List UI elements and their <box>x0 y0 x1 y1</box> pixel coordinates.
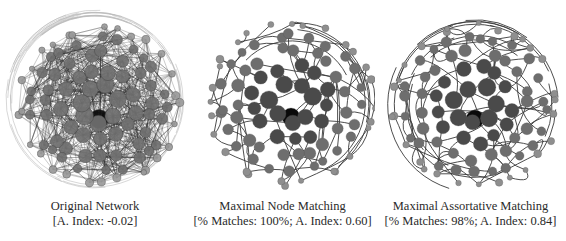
network-node <box>49 68 61 80</box>
network-node <box>476 182 481 187</box>
network-node <box>320 82 335 97</box>
network-node <box>270 129 285 144</box>
network-node <box>85 65 99 79</box>
network-node <box>41 109 52 120</box>
network-node <box>508 41 517 50</box>
network-node <box>485 148 497 160</box>
network-node <box>512 66 522 76</box>
network-node <box>39 47 45 53</box>
network-node <box>457 131 471 145</box>
network-node <box>421 166 427 172</box>
network-node <box>366 125 371 130</box>
network-node <box>300 23 306 29</box>
network-node <box>550 110 557 117</box>
network-node <box>94 132 107 145</box>
network-node <box>331 168 338 175</box>
network-node <box>446 50 458 62</box>
network-node <box>420 72 430 82</box>
network-node <box>434 162 443 171</box>
network-node <box>489 50 501 62</box>
network-node <box>240 65 251 76</box>
network-node <box>340 51 350 61</box>
network-node <box>430 65 441 76</box>
network-node <box>543 105 551 113</box>
network-node <box>135 68 146 79</box>
network-node <box>176 98 184 106</box>
network-node <box>57 152 67 162</box>
network-node <box>397 78 402 83</box>
network-node <box>289 133 301 145</box>
panel-metrics: [A. Index: -0.02] <box>0 214 190 229</box>
network-node <box>320 56 331 67</box>
network-diagram-assortative-matching <box>375 0 566 195</box>
network-node <box>390 83 398 91</box>
network-node <box>432 106 444 118</box>
network-node <box>157 113 168 124</box>
network-node <box>330 71 342 83</box>
network-node <box>82 81 98 97</box>
network-node <box>162 102 172 112</box>
network-node <box>507 175 512 180</box>
network-node <box>521 123 533 135</box>
network-node <box>133 138 145 150</box>
network-node <box>298 109 314 125</box>
network-node <box>223 124 234 135</box>
network-node <box>94 149 106 161</box>
network-node <box>460 81 477 98</box>
network-node <box>233 100 243 110</box>
panel-title: Maximal Node Matching <box>190 199 375 214</box>
network-node <box>418 43 425 50</box>
network-node <box>231 111 244 124</box>
network-node <box>251 58 263 70</box>
network-node <box>165 143 172 150</box>
network-node <box>401 112 409 120</box>
network-node <box>268 21 274 27</box>
network-node <box>79 149 93 163</box>
network-node <box>488 167 497 176</box>
network-node <box>500 145 512 157</box>
network-diagram-original <box>0 0 190 195</box>
network-node <box>488 129 500 141</box>
network-node <box>527 44 534 51</box>
network-node <box>208 99 213 104</box>
network-node <box>59 82 74 97</box>
network-node <box>430 45 438 53</box>
network-node <box>436 120 449 133</box>
network-node <box>473 137 488 152</box>
network-node <box>243 168 251 176</box>
panel-maximal-node-matching: Maximal Node Matching [% Matches: 100%; … <box>190 0 375 241</box>
network-node <box>129 45 138 54</box>
network-node <box>64 58 75 69</box>
network-node <box>222 148 230 156</box>
network-node <box>520 36 526 42</box>
network-node <box>406 134 414 142</box>
network-node <box>367 118 374 125</box>
network-node <box>27 87 36 96</box>
network-node <box>534 150 542 158</box>
network-node <box>488 66 501 79</box>
network-node <box>551 90 558 97</box>
network-node <box>539 97 548 106</box>
network-node <box>456 180 462 186</box>
network-node <box>289 21 294 26</box>
network-node <box>389 114 395 120</box>
panel-title: Maximal Assortative Matching <box>375 199 566 214</box>
panel-title: Original Network <box>0 199 190 214</box>
network-node <box>349 119 360 130</box>
network-node <box>499 80 512 93</box>
network-node <box>510 133 521 144</box>
network-node <box>524 53 535 64</box>
network-node <box>153 154 161 162</box>
network-node <box>102 24 108 30</box>
network-node <box>469 166 480 177</box>
network-node <box>110 150 122 162</box>
network-node <box>72 41 82 51</box>
network-node <box>113 174 121 182</box>
network-node <box>63 170 71 178</box>
network-node <box>254 142 265 153</box>
network-node <box>304 88 322 106</box>
network-node <box>144 109 155 120</box>
network-node <box>295 58 309 72</box>
network-node <box>139 54 147 62</box>
network-node <box>480 110 497 127</box>
